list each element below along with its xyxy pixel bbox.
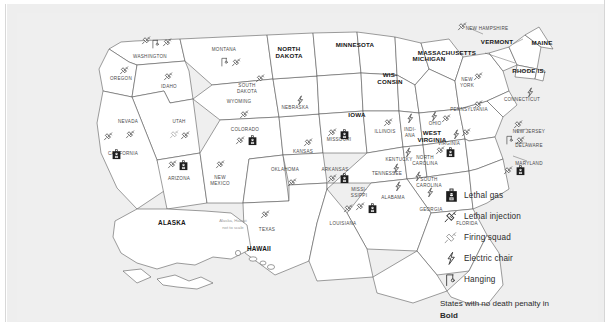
state-label-TN: TENNESSEE <box>372 171 402 176</box>
icon-lethal-gas-MD <box>517 166 525 175</box>
legend-label-lethal-gas: Lethal gas <box>464 191 503 200</box>
right-margin <box>604 0 616 335</box>
legend-note-text: States with no death penalty in <box>440 299 549 308</box>
hanging-icon <box>438 270 464 290</box>
state-label-SD: SOUTHDAKOTA <box>237 83 258 94</box>
state-label-MI: MICHIGAN <box>413 55 446 62</box>
state-label-AL: ALABAMA <box>381 195 405 200</box>
state-label-MS: MISSI-SSIPPI <box>351 187 367 198</box>
state-label-AK: ALASKA <box>158 219 186 226</box>
state-label-MA: MASSACHUSETTS <box>418 49 476 56</box>
scale-note-line1: Alaska, Hawaii <box>219 218 247 223</box>
state-label-DE: DELAWARE <box>515 143 542 148</box>
state-label-WY: WYOMING <box>227 99 252 104</box>
map-legend: Lethal gas Lethal injection Firing squad… <box>438 185 588 321</box>
scale-note-line2: not to scale <box>222 225 244 230</box>
state-label-TX: TEXAS <box>259 227 275 232</box>
state-label-ND: NORTHDAKOTA <box>275 45 303 59</box>
state-label-UT: UTAH <box>172 119 185 124</box>
state-label-IL: ILLINOIS <box>375 129 396 134</box>
state-label-AR: ARKANSAS <box>321 167 348 172</box>
firing-squad-icon <box>438 228 464 248</box>
state-label-ME: MAINE <box>532 39 553 46</box>
legend-note-bold: Bold <box>440 311 458 320</box>
state-label-VT: VERMONT <box>481 38 513 45</box>
icon-lethal-injection-AR <box>328 175 335 182</box>
state-label-NE: NEBRASKA <box>281 105 309 110</box>
state-label-NY: NEWYORK <box>460 77 475 88</box>
icon-hanging-DE <box>507 136 512 144</box>
state-label-ID: IDAHO <box>161 84 177 89</box>
state-label-MT: MONTANA <box>212 47 237 52</box>
legend-note: States with no death penalty in Bold <box>440 298 560 321</box>
icon-electric-chair-CT <box>528 88 533 97</box>
state-label-MD: MARYLAND <box>515 161 543 166</box>
state-label-AZ: ARIZONA <box>168 176 191 181</box>
legend-label-firing-squad: Firing squad <box>464 233 511 242</box>
state-label-KS: KANSAS <box>293 149 313 154</box>
state-label-HI: HAWAII <box>247 245 271 252</box>
icon-lethal-injection-MD <box>504 167 511 174</box>
legend-item-electric-chair: Electric chair <box>438 248 588 269</box>
state-label-NV: NEVADA <box>118 119 139 124</box>
state-label-WA: WASHINGTON <box>133 54 167 59</box>
state-label-IN: INDI-ANA <box>404 127 416 138</box>
state-label-RI: RHODE IS. <box>512 67 546 74</box>
state-label-CO: COLORADO <box>231 127 259 132</box>
legend-item-hanging: Hanging <box>438 269 588 290</box>
state-label-OH: OHIO <box>429 121 442 126</box>
state-label-CT: CONNECTICUT <box>504 97 540 102</box>
state-label-OK: OKLAHOMA <box>271 167 300 172</box>
right-rule <box>604 0 605 335</box>
electric-chair-icon <box>438 249 464 269</box>
left-rule <box>5 0 6 335</box>
lethal-gas-icon <box>438 186 464 206</box>
state-label-LA: LOUISIANA <box>330 221 357 226</box>
legend-item-lethal-gas: Lethal gas <box>438 185 588 206</box>
icon-lethal-injection-NJ <box>514 121 521 128</box>
icon-lethal-injection-NH <box>458 23 465 30</box>
state-label-IA: IOWA <box>348 111 366 118</box>
legend-label-electric-chair: Electric chair <box>464 254 513 263</box>
legend-item-lethal-injection: Lethal injection <box>438 206 588 227</box>
legend-label-hanging: Hanging <box>464 275 496 284</box>
top-margin <box>0 0 616 4</box>
legend-label-lethal-injection: Lethal injection <box>464 212 521 221</box>
lethal-injection-icon <box>438 207 464 227</box>
state-label-PA: PENNSYLVANIA <box>450 107 488 112</box>
legend-item-firing-squad: Firing squad <box>438 227 588 248</box>
state-label-NH: NEW HAMPSHIRE <box>466 26 509 31</box>
state-label-MN: MINNESOTA <box>336 41 375 48</box>
screenshot-root: WASHINGTON OREGON IDAHO MONTANA WYOMING … <box>0 0 616 335</box>
state-label-NJ: NEW JERSEY <box>513 129 545 134</box>
state-label-KY: KENTUCKY <box>385 157 412 162</box>
state-label-CA: CALIFORNIA <box>108 151 139 156</box>
bottom-margin <box>0 322 616 335</box>
state-label-OR: OREGON <box>110 76 132 81</box>
